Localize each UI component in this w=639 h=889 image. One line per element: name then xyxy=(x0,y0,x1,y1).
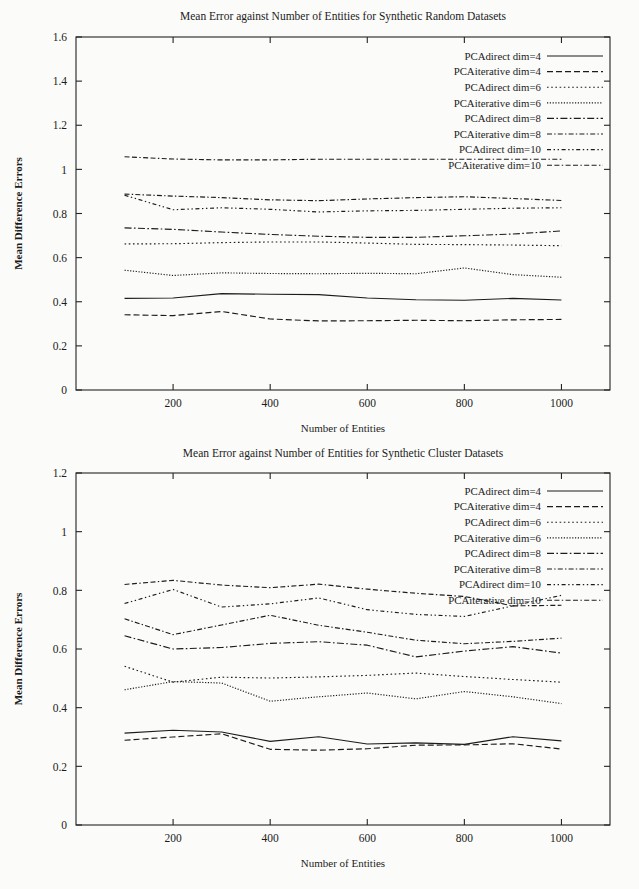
chart-title: Mean Error against Number of Entities fo… xyxy=(183,447,504,460)
chart-panel-synthetic-random: Mean Error against Number of Entities fo… xyxy=(0,0,639,440)
y-tick-label: 1.2 xyxy=(53,119,68,131)
legend-label-pcadirect-dim-10: PCAdirect dim=10 xyxy=(459,578,541,590)
legend-label-pcaiterative-dim-10: PCAiterative dim=10 xyxy=(448,159,541,171)
y-tick-label: 0.2 xyxy=(53,340,68,352)
legend-label-pcaiterative-dim-4: PCAiterative dim=4 xyxy=(454,500,542,512)
legend-label-pcaiterative-dim-6: PCAiterative dim=6 xyxy=(454,97,542,109)
x-tick-label: 600 xyxy=(359,397,377,409)
y-tick-label: 0.2 xyxy=(53,761,68,773)
x-tick-label: 200 xyxy=(164,397,182,409)
legend-label-pcadirect-dim-6: PCAdirect dim=6 xyxy=(464,516,541,528)
series-line-pcaiterative-dim-4 xyxy=(125,734,562,750)
series-line-pcadirect-dim-8 xyxy=(125,636,562,657)
series-line-pcadirect-dim-6 xyxy=(125,666,562,682)
y-tick-label: 0.6 xyxy=(53,252,68,264)
y-tick-label: 1.2 xyxy=(53,467,68,479)
chart-svg-synthetic-random: Mean Error against Number of Entities fo… xyxy=(0,0,639,440)
legend-label-pcaiterative-dim-8: PCAiterative dim=8 xyxy=(454,128,541,140)
legend: PCAdirect dim=4PCAiterative dim=4PCAdire… xyxy=(448,485,603,606)
series-line-pcaiterative-dim-8 xyxy=(125,194,562,201)
x-axis-label: Number of Entities xyxy=(301,422,385,434)
x-axis-label: Number of Entities xyxy=(301,857,385,869)
y-tick-label: 1.6 xyxy=(53,31,68,43)
x-tick-label: 400 xyxy=(262,397,280,409)
series-line-pcadirect-dim-4 xyxy=(125,730,562,744)
x-axis-ticks: 2004006008001000 xyxy=(164,473,573,844)
y-tick-label: 0 xyxy=(61,819,67,831)
legend-label-pcadirect-dim-10: PCAdirect dim=10 xyxy=(459,143,541,155)
legend-label-pcaiterative-dim-4: PCAiterative dim=4 xyxy=(454,65,542,77)
legend-label-pcadirect-dim-6: PCAdirect dim=6 xyxy=(464,81,541,93)
y-tick-label: 0.4 xyxy=(53,702,68,714)
series-line-pcadirect-dim-4 xyxy=(125,294,562,301)
y-tick-label: 0 xyxy=(61,384,67,396)
legend-label-pcadirect-dim-4: PCAdirect dim=4 xyxy=(464,50,541,62)
y-axis-label: Mean Difference Errors xyxy=(12,156,24,269)
chart-title: Mean Error against Number of Entities fo… xyxy=(180,10,507,23)
y-tick-label: 0.6 xyxy=(53,643,68,655)
legend-label-pcaiterative-dim-6: PCAiterative dim=6 xyxy=(454,532,542,544)
y-tick-label: 1 xyxy=(61,164,67,176)
series-line-pcaiterative-dim-6 xyxy=(125,682,562,704)
legend-label-pcadirect-dim-8: PCAdirect dim=8 xyxy=(464,547,541,559)
y-tick-label: 0.8 xyxy=(53,585,68,597)
y-tick-label: 0.8 xyxy=(53,208,68,220)
series-group xyxy=(125,157,562,321)
chart-panel-synthetic-cluster: Mean Error against Number of Entities fo… xyxy=(0,440,639,889)
x-tick-label: 1000 xyxy=(550,397,573,409)
x-tick-label: 600 xyxy=(359,832,377,844)
legend-label-pcaiterative-dim-8: PCAiterative dim=8 xyxy=(454,563,541,575)
series-line-pcaiterative-dim-8 xyxy=(125,615,562,643)
x-tick-label: 800 xyxy=(456,397,474,409)
legend: PCAdirect dim=4PCAiterative dim=4PCAdire… xyxy=(448,50,603,171)
series-line-pcadirect-dim-6 xyxy=(125,242,562,246)
legend-label-pcadirect-dim-4: PCAdirect dim=4 xyxy=(464,485,541,497)
y-axis-label: Mean Difference Errors xyxy=(12,592,24,705)
figure-page: Mean Error against Number of Entities fo… xyxy=(0,0,639,889)
series-line-pcadirect-dim-8 xyxy=(125,228,562,237)
series-line-pcaiterative-dim-4 xyxy=(125,311,562,320)
y-tick-label: 1 xyxy=(61,526,67,538)
y-tick-label: 1.4 xyxy=(53,75,68,87)
y-tick-label: 0.4 xyxy=(53,296,68,308)
series-line-pcaiterative-dim-6 xyxy=(125,268,562,277)
chart-svg-synthetic-cluster: Mean Error against Number of Entities fo… xyxy=(0,440,639,889)
legend-label-pcadirect-dim-8: PCAdirect dim=8 xyxy=(464,112,541,124)
x-tick-label: 1000 xyxy=(550,832,573,844)
x-tick-label: 800 xyxy=(456,832,474,844)
x-tick-label: 200 xyxy=(164,832,182,844)
legend-label-pcaiterative-dim-10: PCAiterative dim=10 xyxy=(448,594,541,606)
x-tick-label: 400 xyxy=(262,832,280,844)
